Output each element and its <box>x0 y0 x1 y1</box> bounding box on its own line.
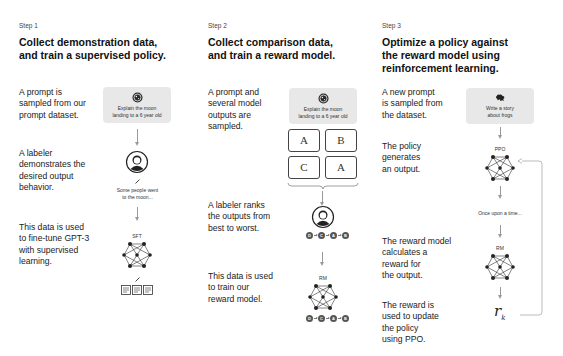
rm-neural-network-icon <box>485 253 515 281</box>
pencil-icon <box>135 178 141 184</box>
output-card-d: A <box>325 156 357 179</box>
step-1-desc-prompt: A prompt is sampled from our prompt data… <box>19 87 86 121</box>
sft-neural-network-icon <box>122 241 152 269</box>
rm-model-label: RM <box>313 275 333 281</box>
step-3-label: Step 3 <box>382 22 401 29</box>
step-1-prompt-card: Explain the moon landing to a 6 year old <box>103 87 171 123</box>
arrow-down-icon <box>137 129 138 143</box>
frog-icon <box>495 93 506 102</box>
step-2-desc-sampled: A prompt and several model outputs are s… <box>208 87 262 132</box>
ranking-sequence: D C A B <box>306 232 349 239</box>
labeler-avatar-icon <box>312 206 334 228</box>
step-2-desc-ranks: A labeler ranks the outputs from best to… <box>208 200 270 234</box>
documents-icon <box>121 285 153 295</box>
feedback-loop-arrow-icon <box>515 158 545 316</box>
ranking-sequence-rm: D C A B <box>306 315 349 322</box>
rm-reward-label: RM <box>490 245 510 251</box>
arrow-down-icon <box>322 252 323 263</box>
pencil-icon <box>135 276 141 282</box>
reward-symbol: rk <box>494 302 505 322</box>
step-2-prompt-card: Explain the moon landing to a 6 year old <box>289 88 357 124</box>
step-3-title: Optimize a policy against the reward mod… <box>382 36 508 75</box>
step-3-desc-reward: The reward model calculates a reward for… <box>382 236 451 281</box>
step-2-label: Step 2 <box>208 22 227 29</box>
step-3-prompt-card: Write a story about frogs <box>466 88 534 124</box>
step-1-column: Step 1 Collect demonstration data, and t… <box>0 0 185 356</box>
step-3-desc-update: The reward is used to update the policy … <box>382 300 439 345</box>
ppo-policy-label: PPO <box>490 146 510 152</box>
labeler-avatar-icon <box>126 151 148 173</box>
step-1-desc-finetune: This data is used to fine-tune GPT-3 wit… <box>19 222 89 267</box>
step-2-desc-train: This data is used to train our reward mo… <box>208 271 273 305</box>
arrow-down-icon <box>322 191 323 203</box>
step-1-title: Collect demonstration data, and train a … <box>19 36 166 62</box>
step-3-desc-policy: The policy generates an output. <box>382 141 421 175</box>
output-card-b: B <box>325 129 357 152</box>
arrow-down-icon <box>500 225 501 235</box>
rm-neural-network-icon <box>308 283 338 311</box>
ppo-neural-network-icon <box>485 154 515 182</box>
output-card-c: C <box>288 156 320 179</box>
arrow-down-icon <box>500 127 501 136</box>
output-card-a: A <box>288 129 320 152</box>
step-2-title: Collect comparison data, and train a rew… <box>208 36 335 62</box>
moon-icon <box>132 92 143 103</box>
arrow-down-icon <box>500 287 501 296</box>
brace-icon <box>287 182 359 190</box>
step-2-column: Step 2 Collect comparison data, and trai… <box>185 0 370 356</box>
step-1-label: Step 1 <box>19 22 38 29</box>
arrow-down-icon <box>500 186 501 196</box>
moon-icon <box>318 93 329 104</box>
step-3-desc-prompt: A new prompt is sampled from the dataset… <box>382 87 443 121</box>
demo-output-text: Some people went to the moon... <box>110 187 165 200</box>
arrow-down-icon <box>137 207 138 218</box>
step-1-desc-labeler: A labeler demonstrates the desired outpu… <box>19 148 85 193</box>
sft-model-label: SFT <box>127 233 147 239</box>
step-3-column: Step 3 Optimize a policy against the rew… <box>370 0 563 356</box>
